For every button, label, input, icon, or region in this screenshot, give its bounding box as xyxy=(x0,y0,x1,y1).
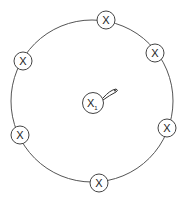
outer-node-label: X xyxy=(102,14,110,26)
center-node: X1 xyxy=(83,93,104,114)
outer-node-label: X xyxy=(151,47,159,59)
outer-node-label: X xyxy=(19,55,27,67)
loop-dot xyxy=(114,90,116,92)
outer-node-5: X xyxy=(11,126,29,144)
outer-node-4: X xyxy=(158,119,176,137)
outer-node-6: X xyxy=(90,174,108,192)
outer-node-3: X xyxy=(14,52,32,70)
outer-node-label: X xyxy=(95,177,103,189)
outer-node-2: X xyxy=(146,44,164,62)
outer-node-1: X xyxy=(97,11,115,29)
outer-node-label: X xyxy=(16,129,24,141)
outer-node-label: X xyxy=(163,122,171,134)
ring-diagram: X1 X X X X X X xyxy=(0,0,190,204)
